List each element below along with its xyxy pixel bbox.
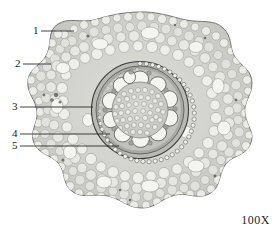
- callout-label-2: 2: [15, 58, 21, 69]
- callout-label-4: 4: [12, 128, 18, 139]
- micrograph-figure: 1 2 3 4 5 100X: [0, 0, 275, 235]
- callout-label-3: 3: [12, 101, 18, 112]
- root-cross-section-image: [0, 0, 275, 235]
- magnification-label: 100X: [241, 213, 270, 228]
- callout-label-5: 5: [12, 140, 18, 151]
- callout-label-1: 1: [33, 25, 39, 36]
